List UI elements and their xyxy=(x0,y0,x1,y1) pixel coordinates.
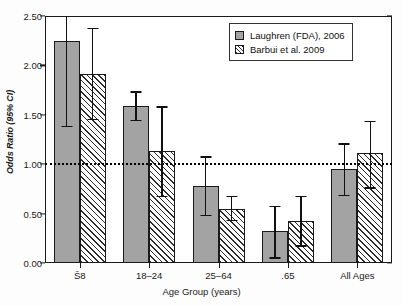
x-axis-tick-mark xyxy=(149,263,150,268)
y-axis-tick-label: 1.00 xyxy=(2,159,42,170)
error-bar-cap-top xyxy=(131,91,142,93)
y-axis-title: Odds Ratio (95% CI) xyxy=(2,0,18,263)
error-bar-cap-top xyxy=(339,143,350,145)
error-bar-cap-bottom xyxy=(157,196,168,198)
error-bar-cap-top xyxy=(295,196,306,198)
legend-label-laughren: Laughren (FDA), 2006 xyxy=(250,30,345,41)
error-bar-cap-bottom xyxy=(339,195,350,197)
error-bar-line xyxy=(161,106,163,196)
x-axis-tick-label: Š8 xyxy=(40,270,120,281)
error-bar-line xyxy=(92,28,94,119)
error-bar-cap-bottom xyxy=(200,215,211,217)
error-bar-line xyxy=(344,143,346,194)
error-bar-cap-top xyxy=(157,106,168,108)
x-axis-tick-label: 25–64 xyxy=(179,270,259,281)
error-bar-line xyxy=(231,196,233,220)
error-bar-line xyxy=(205,156,207,214)
chart-legend: Laughren (FDA), 2006 Barbui et al. 2009 xyxy=(229,23,353,61)
y-axis-tick-label: 2.00 xyxy=(2,60,42,71)
error-bar-line xyxy=(135,91,137,120)
x-axis-tick-label: All Ages xyxy=(317,270,397,281)
error-bar-line xyxy=(66,16,68,126)
error-bar-cap-top xyxy=(269,206,280,208)
legend-swatch-hatched-icon xyxy=(235,45,244,54)
error-bar-cap-bottom xyxy=(226,220,237,222)
legend-swatch-solid-icon xyxy=(235,31,244,40)
y-axis-tick-label: 0.50 xyxy=(2,208,42,219)
error-bar-cap-bottom xyxy=(365,187,376,189)
reference-line-1 xyxy=(45,163,392,165)
legend-item-laughren: Laughren (FDA), 2006 xyxy=(235,28,345,42)
x-axis-tick-mark xyxy=(357,263,358,268)
y-axis-tick-label: 1.50 xyxy=(2,109,42,120)
legend-item-barbui: Barbui et al. 2009 xyxy=(235,42,345,56)
error-bar-cap-bottom xyxy=(131,120,142,122)
x-axis-tick-label: .65 xyxy=(248,270,328,281)
error-bar-cap-bottom xyxy=(87,119,98,121)
legend-label-barbui: Barbui et al. 2009 xyxy=(250,44,324,55)
error-bar-cap-top xyxy=(87,28,98,30)
x-axis-tick-mark xyxy=(219,263,220,268)
error-bar-line xyxy=(300,196,302,245)
x-axis-tick-mark xyxy=(80,263,81,268)
error-bar-line xyxy=(370,121,372,187)
error-bar-cap-bottom xyxy=(295,245,306,247)
error-bar-line xyxy=(274,206,276,257)
y-axis-tick-label: 0.00 xyxy=(2,258,42,269)
odds-ratio-bar-chart: Odds Ratio (95% CI) 0.000.501.001.502.00… xyxy=(0,0,403,306)
error-bar-cap-top xyxy=(226,196,237,198)
error-bar-cap-bottom xyxy=(269,257,280,259)
x-axis-tick-label: 18–24 xyxy=(109,270,189,281)
bar xyxy=(123,106,149,263)
error-bar-cap-bottom xyxy=(61,126,72,128)
x-axis-tick-mark xyxy=(288,263,289,268)
x-axis-title: Age Group (years) xyxy=(0,286,403,297)
error-bar-cap-top xyxy=(365,121,376,123)
y-axis-tick-label: 2.50 xyxy=(2,11,42,22)
error-bar-cap-top xyxy=(200,156,211,158)
